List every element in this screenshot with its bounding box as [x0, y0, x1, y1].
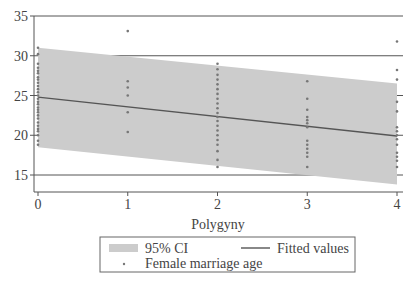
data-point: [306, 116, 309, 119]
data-point: [37, 85, 40, 88]
data-point: [396, 130, 399, 133]
data-point: [37, 134, 40, 137]
data-point: [396, 138, 399, 141]
data-point: [216, 124, 219, 127]
data-point: [216, 62, 219, 65]
data-point: [216, 139, 219, 142]
data-point: [306, 109, 309, 112]
data-point: [37, 94, 40, 97]
legend-label-fitted: Fitted values: [277, 241, 349, 256]
data-point: [216, 143, 219, 146]
data-point: [37, 106, 40, 109]
data-point: [126, 131, 129, 134]
x-tick-label: 4: [394, 197, 401, 212]
data-point: [216, 78, 219, 81]
x-tick-label: 3: [304, 197, 311, 212]
data-point: [37, 143, 40, 146]
data-point: [306, 143, 309, 146]
data-point: [216, 88, 219, 91]
legend-label-ci: 95% CI: [145, 241, 189, 256]
data-point: [37, 140, 40, 143]
data-point: [216, 166, 219, 169]
data-point: [216, 97, 219, 100]
data-point: [37, 101, 40, 104]
x-tick-label: 1: [124, 197, 131, 212]
data-point: [396, 40, 399, 43]
data-point: [306, 151, 309, 154]
data-point: [396, 110, 399, 113]
data-point: [37, 72, 40, 75]
data-point: [37, 78, 40, 81]
data-point: [306, 155, 309, 158]
y-tick-label: 20: [14, 128, 28, 143]
data-point: [37, 128, 40, 131]
data-point: [306, 126, 309, 129]
data-point: [37, 121, 40, 124]
x-axis-title: Polygyny: [191, 217, 245, 232]
data-point: [396, 101, 399, 104]
data-point: [396, 69, 399, 72]
data-point: [37, 47, 40, 50]
data-point: [126, 94, 129, 97]
data-point: [37, 62, 40, 65]
data-point: [306, 166, 309, 169]
data-point: [216, 83, 219, 86]
data-point: [126, 86, 129, 89]
data-point: [216, 112, 219, 115]
data-point: [306, 147, 309, 150]
data-point: [396, 126, 399, 129]
data-point: [37, 130, 40, 133]
data-point: [216, 116, 219, 119]
data-point: [37, 53, 40, 56]
data-point: [37, 103, 40, 106]
data-point: [306, 122, 309, 125]
data-point: [216, 129, 219, 132]
data-point: [306, 140, 309, 143]
data-point: [37, 124, 40, 127]
data-point: [396, 166, 399, 169]
x-tick-label: 2: [214, 197, 221, 212]
data-point: [37, 81, 40, 84]
data-point: [126, 80, 129, 83]
data-point: [216, 150, 219, 153]
data-point: [216, 93, 219, 96]
y-tick-label: 35: [14, 9, 28, 24]
data-point: [37, 76, 40, 79]
legend-label-marker: Female marriage age: [145, 256, 262, 271]
data-point: [37, 66, 40, 69]
data-point: [216, 74, 219, 77]
data-point: [37, 109, 40, 112]
data-point: [37, 88, 40, 91]
data-point: [396, 78, 399, 81]
y-tick-label: 25: [14, 89, 28, 104]
data-point: [37, 91, 40, 94]
data-point: [37, 117, 40, 120]
data-point: [126, 111, 129, 114]
data-point: [216, 68, 219, 71]
data-point: [37, 70, 40, 73]
data-point: [216, 159, 219, 162]
data-point: [306, 80, 309, 83]
y-tick-label: 30: [14, 49, 28, 64]
data-point: [37, 111, 40, 114]
data-point: [396, 155, 399, 158]
data-point: [396, 159, 399, 162]
data-point: [216, 107, 219, 110]
legend: 95% CI Fitted values Female marriage age: [100, 237, 355, 272]
data-point: [396, 143, 399, 146]
data-point: [126, 30, 129, 33]
data-point: [216, 120, 219, 123]
chart: 152025303501234 Polygyny 95% CI Fitted v…: [0, 0, 412, 283]
data-point: [396, 151, 399, 154]
legend-marker-swatch: [123, 263, 125, 265]
data-point: [306, 97, 309, 100]
data-point: [216, 102, 219, 105]
data-point: [216, 134, 219, 137]
data-point: [306, 119, 309, 122]
y-tick-label: 15: [14, 168, 28, 183]
data-point: [37, 97, 40, 100]
data-point: [37, 114, 40, 117]
legend-band-swatch: [109, 244, 138, 252]
data-point: [396, 134, 399, 137]
x-tick-label: 0: [35, 197, 42, 212]
